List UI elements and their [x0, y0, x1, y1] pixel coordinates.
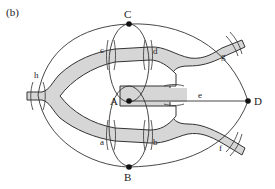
konigsberg-diagram: (b) C A B D: [0, 0, 275, 189]
river-channel-e: [155, 88, 187, 102]
label-bridge-b: b: [153, 137, 158, 147]
label-bridge-f: f: [219, 143, 222, 153]
label-bridge-h: h: [34, 70, 39, 80]
label-node-D: D: [254, 95, 262, 107]
label-node-C: C: [124, 8, 131, 20]
label-bridge-e: e: [198, 90, 202, 100]
label-bridge-g: g: [221, 51, 226, 61]
label-node-A: A: [110, 95, 118, 107]
panel-label: (b): [6, 6, 19, 19]
node-B: [126, 164, 132, 170]
node-D: [245, 98, 251, 104]
label-bridge-c: c: [100, 45, 104, 55]
label-bridge-a: a: [100, 137, 104, 147]
label-node-B: B: [124, 171, 131, 183]
node-A: [126, 98, 132, 104]
node-C: [126, 21, 132, 27]
label-bridge-d: d: [153, 46, 158, 56]
